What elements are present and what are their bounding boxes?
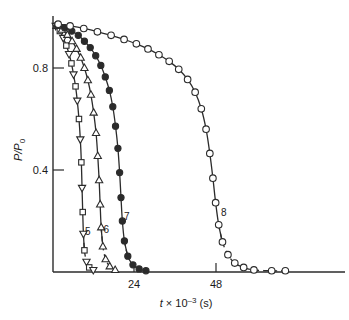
data-point-marker [225, 251, 232, 258]
y-axis-title-subscript: 0 [18, 138, 27, 143]
data-point-marker [77, 137, 84, 143]
data-point-marker [210, 175, 217, 182]
data-point-marker [77, 54, 84, 60]
data-point-marker [73, 45, 80, 51]
data-point-marker [198, 106, 205, 113]
data-point-marker [121, 238, 127, 244]
data-point-marker [87, 91, 94, 97]
figure-panel: 0.8 0.4 24 48 P/P0 t × 10–3 (s) 5678 [0, 0, 349, 320]
data-point-marker [219, 239, 226, 246]
data-point-marker [75, 32, 81, 38]
data-point-marker [251, 267, 258, 274]
curve-label-5: 5 [85, 226, 91, 237]
y-axis-title: P/P0 [12, 138, 27, 161]
data-point-marker [67, 23, 74, 30]
x-axis-title-mult: × 10 [166, 297, 188, 309]
y-tick-label-0.8: 0.8 [33, 62, 48, 74]
curve-line-7 [57, 25, 128, 256]
x-tick-label-24: 24 [128, 278, 140, 290]
data-point-marker [110, 104, 116, 110]
data-point-marker [97, 200, 104, 206]
data-point-marker [76, 116, 81, 121]
data-point-marker [69, 61, 74, 66]
data-point-marker [268, 267, 275, 274]
data-point-marker [92, 129, 99, 135]
data-point-marker [118, 194, 124, 200]
data-point-marker [133, 40, 140, 47]
data-point-marker [95, 176, 102, 182]
data-point-marker [55, 21, 62, 28]
data-point-marker [94, 152, 101, 158]
data-point-marker [117, 169, 123, 175]
data-point-marker [80, 209, 85, 214]
curve-label-layer: 5678 [85, 207, 227, 237]
data-point-marker [282, 267, 289, 274]
data-point-marker [102, 74, 108, 80]
data-point-marker [90, 267, 97, 273]
data-point-marker [130, 262, 136, 268]
data-point-marker [203, 126, 210, 133]
data-point-marker [231, 260, 238, 267]
data-point-marker [79, 160, 84, 165]
data-point-marker [108, 32, 115, 39]
chart-svg: 0.8 0.4 24 48 P/P0 t × 10–3 (s) 5678 [0, 0, 349, 320]
data-point-marker [94, 28, 101, 35]
data-point-marker [192, 89, 199, 96]
y-axis-ticks [53, 68, 64, 170]
data-point-marker [102, 255, 109, 261]
data-point-marker [98, 62, 104, 68]
data-point-marker [74, 98, 81, 104]
x-tick-label-48: 48 [210, 278, 222, 290]
data-point-marker [166, 58, 173, 65]
curve-label-6: 6 [104, 224, 110, 235]
data-point-marker [90, 109, 97, 115]
data-point-marker [81, 38, 87, 44]
svg-text:t × 10–3 (s): t × 10–3 (s) [160, 296, 213, 309]
data-point-marker [93, 53, 99, 59]
data-point-marker [175, 66, 182, 73]
data-point-marker [207, 150, 214, 157]
x-axis-title: t × 10–3 (s) [160, 296, 213, 309]
data-point-marker [112, 123, 118, 129]
data-point-marker [240, 264, 247, 271]
curve-tail-8 [219, 225, 286, 271]
data-point-marker [73, 84, 78, 89]
y-axis-title-text: P/P [12, 143, 24, 161]
data-point-marker [184, 76, 191, 83]
data-point-marker [82, 248, 87, 253]
data-point-marker [145, 46, 152, 53]
y-tick-label-0.4: 0.4 [33, 164, 48, 176]
curve-label-8: 8 [221, 207, 227, 218]
data-point-marker [143, 268, 149, 274]
data-point-marker [78, 185, 85, 191]
data-point-marker [115, 145, 121, 151]
data-point-marker [99, 243, 106, 249]
svg-text:P/P0: P/P0 [12, 138, 27, 161]
data-point-marker [106, 87, 112, 93]
data-point-marker [87, 45, 93, 51]
x-axis-title-unit: (s) [199, 297, 212, 309]
data-point-marker [212, 199, 219, 206]
data-point-marker [215, 222, 222, 229]
curve-label-7: 7 [124, 211, 130, 222]
data-point-marker [81, 64, 88, 70]
data-point-marker [121, 36, 128, 43]
data-point-marker [80, 25, 87, 32]
data-point-marker [125, 253, 131, 259]
data-point-marker [84, 76, 91, 82]
data-point-marker [156, 51, 163, 58]
data-point-marker [65, 51, 72, 57]
data-point-marker [70, 72, 77, 78]
data-point-marker [136, 266, 142, 272]
